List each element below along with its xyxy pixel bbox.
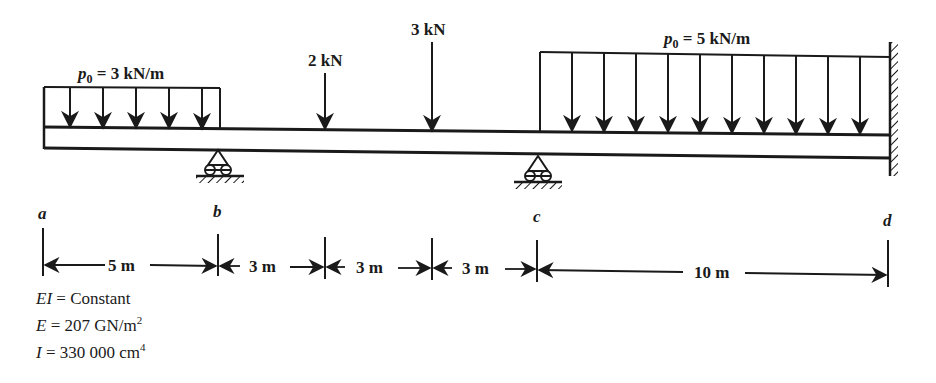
dimension-ticks [43,228,888,287]
property-e: E = 207 GN/m2 [36,316,142,336]
property-ei: EI = Constant [36,289,131,309]
udl-left-load [44,87,220,129]
roller-support-b-icon [196,150,244,183]
fixed-wall-support-d-icon [890,42,898,176]
point-load-3kn-label: 3 kN [411,20,446,39]
point-label-a: a [38,204,47,223]
point-label-d: d [883,211,892,230]
udl-left-label: p0 = 3 kN/m [76,64,164,86]
dimension-label-3: 3 m [462,259,489,278]
property-i: I = 330 000 cm4 [36,343,146,363]
roller-support-c-icon [514,156,562,189]
dimension-label-1: 3 m [249,257,276,276]
point-label-c: c [533,207,541,226]
udl-right-label: p0 = 5 kN/m [662,29,750,51]
dimension-label-2: 3 m [356,258,383,277]
dimension-label-cd: 10 m [694,263,729,282]
point-label-b: b [213,202,222,221]
point-load-2kn-label: 2 kN [308,51,343,70]
udl-right-load [540,52,890,134]
dimension-label-ab: 5 m [108,256,135,275]
